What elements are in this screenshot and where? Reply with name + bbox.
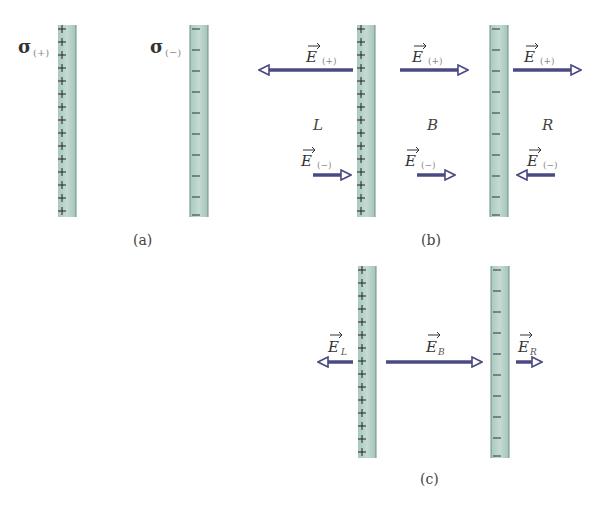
- svg-text:(−): (−): [317, 160, 332, 170]
- region-label-b: B: [426, 116, 438, 134]
- region-label-r: R: [541, 116, 553, 134]
- e-minus-label-left: E (−): [300, 147, 332, 170]
- negative-plate: [491, 266, 509, 458]
- svg-text:(−): (−): [421, 160, 436, 170]
- panel-b: E (+) E (+) E (+) E (−) E (−) E (−): [268, 25, 572, 248]
- negative-plate: [490, 25, 508, 217]
- region-label-l: L: [312, 116, 323, 134]
- svg-text:E: E: [411, 48, 423, 66]
- svg-text:E: E: [425, 338, 437, 356]
- sigma-minus-subscript: (−): [165, 47, 181, 58]
- positive-plate: [357, 25, 375, 217]
- e-minus-label-right: E (−): [526, 147, 558, 170]
- svg-text:(−): (−): [543, 160, 558, 170]
- e-right-label: E R: [517, 332, 537, 357]
- sigma-plus-symbol: σ: [18, 36, 31, 57]
- e-plus-label-between: E (+): [411, 43, 443, 66]
- e-left-label: E L: [327, 332, 347, 357]
- negative-plate: [190, 25, 208, 217]
- panel-c: E L E B E R (c): [327, 266, 537, 487]
- svg-text:(+): (+): [540, 56, 555, 66]
- svg-text:(+): (+): [428, 56, 443, 66]
- svg-text:(+): (+): [322, 56, 337, 66]
- svg-text:E: E: [305, 48, 317, 66]
- e-minus-label-between: E (−): [404, 147, 436, 170]
- svg-text:R: R: [529, 347, 537, 357]
- sigma-minus-symbol: σ: [150, 36, 163, 57]
- svg-text:B: B: [437, 347, 445, 357]
- positive-plate: [58, 25, 76, 217]
- panel-a: σ (+) σ (−) (a): [18, 25, 208, 248]
- svg-text:E: E: [327, 338, 339, 356]
- caption-c: (c): [420, 471, 439, 487]
- capacitor-field-diagram: σ (+) σ (−) (a) E (+) E (+) E (+): [0, 0, 599, 511]
- sigma-plus-subscript: (+): [33, 47, 49, 58]
- svg-text:E: E: [300, 152, 312, 170]
- e-plus-label-left: E (+): [305, 43, 337, 66]
- svg-text:E: E: [517, 338, 529, 356]
- caption-b: (b): [421, 232, 441, 248]
- svg-text:E: E: [404, 152, 416, 170]
- caption-a: (a): [133, 232, 152, 248]
- svg-text:E: E: [523, 48, 535, 66]
- e-plus-label-right: E (+): [523, 43, 555, 66]
- svg-text:L: L: [340, 347, 347, 357]
- positive-plate: [358, 266, 376, 458]
- svg-text:E: E: [526, 152, 538, 170]
- e-between-label: E B: [425, 332, 445, 357]
